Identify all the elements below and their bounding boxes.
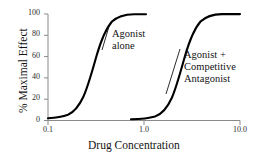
x-tick-label-1-0: 1.0 [129, 126, 159, 134]
dose-response-figure: 100 80 60 40 20 0 0.1 1.0 10.0 % Maximal… [0, 0, 265, 160]
leader-line-agonist-plus-antagonist [166, 49, 180, 94]
annotation-agonist-alone-line-1: Agonist [112, 28, 145, 40]
annotation-agonist-plus-antagonist-line-1: Agonist + [184, 49, 236, 61]
y-tick-marks [44, 14, 48, 121]
x-tick-label-10-0: 10.0 [225, 126, 255, 134]
annotation-agonist-plus-antagonist-line-2: Competitive [184, 61, 236, 73]
annotation-agonist-plus-antagonist: Agonist + Competitive Antagonist [184, 49, 236, 84]
y-tick-label-0: 0 [20, 116, 40, 124]
annotation-agonist-plus-antagonist-line-3: Antagonist [184, 73, 236, 85]
x-tick-label-0-1: 0.1 [33, 126, 63, 134]
annotation-agonist-alone: Agonist alone [112, 28, 145, 52]
y-axis-title: % Maximal Effect [17, 28, 29, 113]
y-tick-label-100: 100 [20, 9, 40, 17]
x-axis-title: Drug Concentration [88, 139, 180, 151]
annotation-agonist-alone-line-2: alone [112, 40, 145, 52]
